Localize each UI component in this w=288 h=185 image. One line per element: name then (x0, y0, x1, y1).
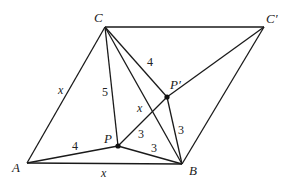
length-label: 4 (147, 55, 153, 69)
length-label: x (100, 166, 107, 180)
segment-pp-cp (167, 27, 264, 97)
point-dot-p (115, 143, 120, 148)
point-label-cp: C′ (266, 11, 278, 26)
segment-c-b (105, 27, 182, 164)
length-label: x (136, 101, 143, 115)
point-label-a: A (11, 160, 20, 175)
length-label: 3 (138, 127, 144, 141)
length-label: 5 (102, 85, 108, 99)
segment-a-b (27, 163, 182, 164)
segment-c-pp (105, 27, 167, 97)
point-label-c: C (94, 10, 103, 25)
length-label: 4 (72, 139, 78, 153)
segment-p-b (118, 146, 182, 164)
segment-a-c (27, 27, 105, 163)
point-label-p: P (103, 131, 112, 146)
length-label: 3 (151, 141, 157, 155)
length-label: x (57, 83, 64, 97)
length-labels: x54x4333x (57, 55, 184, 180)
point-label-pp: P′ (169, 77, 181, 92)
length-label: 3 (178, 123, 184, 137)
point-dot-pp (164, 94, 169, 99)
point-label-b: B (189, 163, 197, 178)
geometry-diagram: ABCC′PP′ x54x4333x (0, 0, 288, 185)
segment-cp-b (182, 27, 264, 164)
